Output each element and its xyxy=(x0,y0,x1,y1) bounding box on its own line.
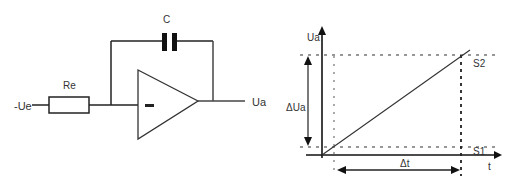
delta-t-label: Δt xyxy=(400,158,410,169)
delta-ua-arrow-head-up xyxy=(304,56,312,65)
integrator-circuit: -Ue Re C Ua xyxy=(14,14,267,139)
capacitor-label: C xyxy=(163,14,170,25)
y-axis-label: Ua xyxy=(307,32,320,43)
x-axis-arrow xyxy=(494,151,502,159)
delta-t-arrow-head-left xyxy=(337,166,346,174)
s2-label: S2 xyxy=(473,58,486,69)
ramp-line xyxy=(322,50,470,155)
delta-ua-label: ΔUa xyxy=(286,102,306,113)
capacitor-plate-left xyxy=(162,33,167,51)
x-axis-label: t xyxy=(488,161,491,172)
resistor xyxy=(49,97,89,113)
output-label: Ua xyxy=(252,96,267,108)
resistor-label: Re xyxy=(63,80,76,91)
ramp-graph: Ua t ΔUa Δt S2 S1 xyxy=(286,26,502,176)
opamp-minus-sign xyxy=(145,104,154,107)
input-label: -Ue xyxy=(14,100,32,112)
s1-label: S1 xyxy=(473,146,486,157)
delta-ua-arrow-head-down xyxy=(304,137,312,146)
delta-t-arrow-head-right xyxy=(451,166,460,174)
capacitor-plate-right xyxy=(172,33,177,51)
integrator-diagram: -Ue Re C Ua Ua t xyxy=(0,0,511,183)
